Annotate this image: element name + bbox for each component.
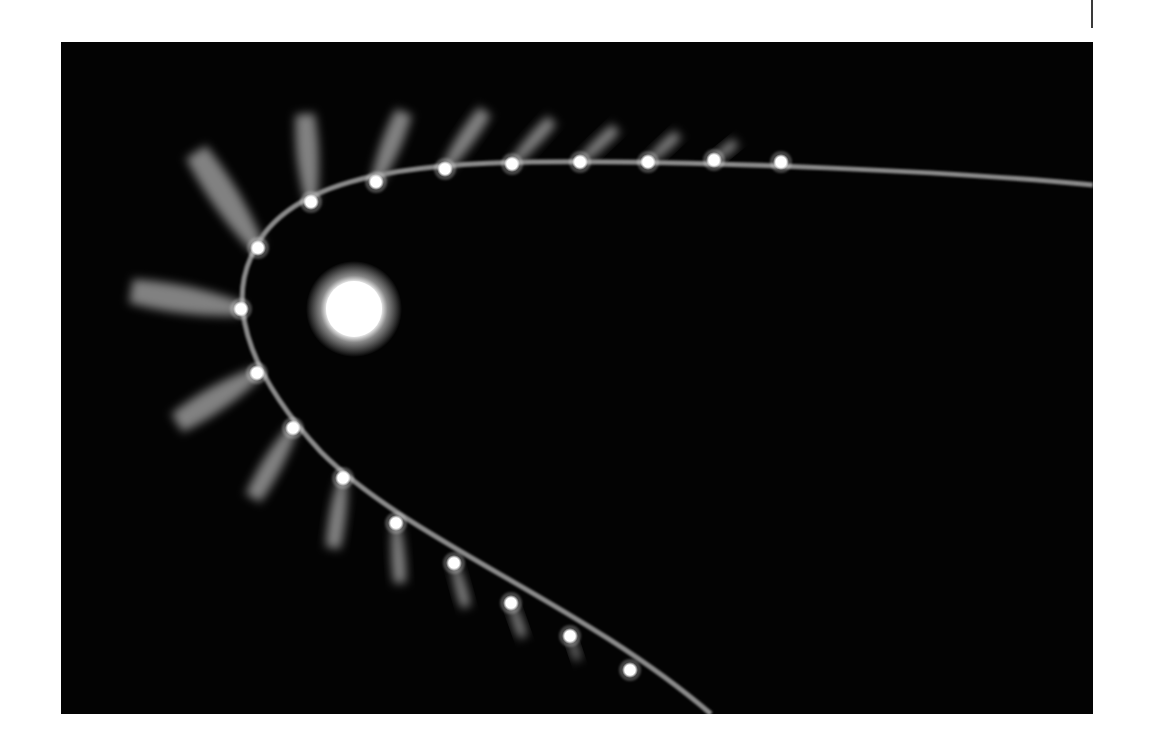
comet-nucleus-icon — [572, 154, 588, 170]
comet-nucleus-icon — [446, 555, 462, 571]
comet-nucleus-icon — [250, 240, 266, 256]
comet-tail — [294, 113, 323, 203]
comet-nucleus-icon — [503, 595, 519, 611]
comet-nucleus-icon — [562, 628, 578, 644]
comet-nucleus-icon — [437, 161, 453, 177]
comet-nuclei — [230, 149, 792, 681]
comet-nucleus-icon — [706, 152, 722, 168]
comet-nucleus-icon — [233, 301, 249, 317]
comet-nucleus-icon — [640, 154, 656, 170]
comet-nucleus-icon — [388, 515, 404, 531]
comet-nucleus-icon — [504, 156, 520, 172]
comet-nucleus-icon — [335, 470, 351, 486]
top-rule-line — [1091, 0, 1093, 28]
sun-icon — [326, 281, 382, 337]
comet-orbit-figure — [61, 42, 1093, 714]
comet-orbit-diagram — [61, 42, 1093, 714]
comet-tails — [129, 106, 739, 661]
comet-nucleus-icon — [285, 420, 301, 436]
comet-tail — [129, 277, 244, 323]
comet-nucleus-icon — [622, 662, 638, 678]
comet-nucleus-icon — [249, 365, 265, 381]
orbit-path — [242, 162, 1093, 714]
comet-nucleus-icon — [368, 174, 384, 190]
comet-nucleus-icon — [303, 194, 319, 210]
comet-nucleus-icon — [773, 154, 789, 170]
